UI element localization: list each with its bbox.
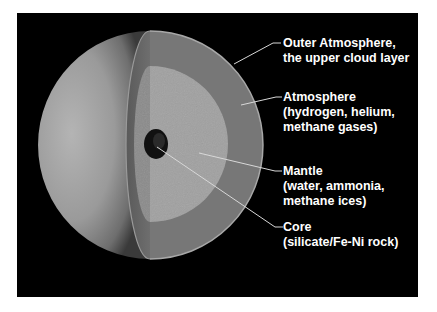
label-atmosphere-line-2: (hydrogen, helium, [283,105,395,120]
label-atmosphere-line-1: Atmosphere [283,90,395,105]
label-mantle-line-1: Mantle [283,164,384,179]
label-core-line-1: Core [283,220,398,235]
label-outer-atmosphere: Outer Atmosphere, the upper cloud layer [283,36,409,66]
label-mantle-line-3: methane ices) [283,194,384,209]
label-core: Core (silicate/Fe-Ni rock) [283,220,398,250]
label-atmosphere-line-3: methane gases) [283,120,395,135]
label-atmosphere: Atmosphere (hydrogen, helium, methane ga… [283,90,395,135]
label-outer-atmosphere-line-1: Outer Atmosphere, [283,36,409,51]
label-core-line-2: (silicate/Fe-Ni rock) [283,235,398,250]
leader-line-outer-atmosphere [234,43,281,64]
label-outer-atmosphere-line-2: the upper cloud layer [283,51,409,66]
label-mantle: Mantle (water, ammonia, methane ices) [283,164,384,209]
core-cross-section [144,129,168,159]
label-mantle-line-2: (water, ammonia, [283,179,384,194]
